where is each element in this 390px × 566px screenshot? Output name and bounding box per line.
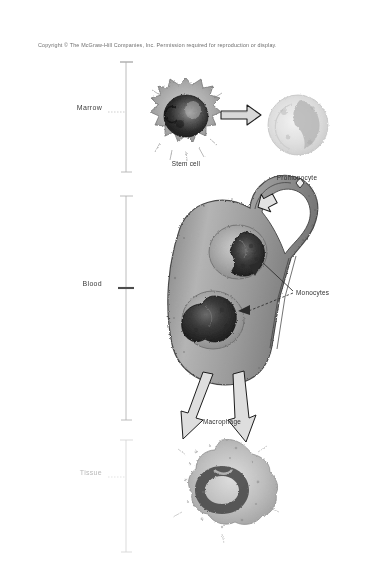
promonocyte-illustration [268,95,328,155]
zone-brackets [108,62,134,552]
arrow-stem-to-promonocyte [221,105,261,125]
stem-cell-illustration [150,78,222,161]
macrophage-granules [185,445,260,528]
blood-vessel-illustration [168,175,318,385]
vessel-wall-texture [173,185,316,381]
zone-label-blood: Blood [44,280,102,287]
arrow-monocyte-exit-left [181,372,213,439]
zone-bracket-tissue [108,440,133,552]
monocyte-upper [209,225,267,279]
leader-monocyte-upper [262,262,293,291]
arrow-monocyte-exit-right [228,371,256,442]
caption-promonocyte: Promonocyte [258,174,336,181]
arrow-promonocyte-into-vessel [253,189,279,216]
zone-bracket-blood [118,196,134,420]
monocyte-leader-lines [238,262,293,315]
macrophage-illustration [173,439,279,543]
zone-label-marrow: Marrow [44,104,102,111]
monocyte-lower [182,291,244,349]
leader-monocyte-lower [246,293,293,312]
caption-macrophage: Macrophage [182,418,262,425]
figure-canvas: Copyright © The McGraw-Hill Companies, I… [0,0,390,566]
zone-bracket-marrow [108,62,133,172]
caption-monocytes: Monocytes [296,289,366,296]
zone-label-tissue: Tissue [44,469,102,476]
caption-stem-cell: Stem cell [156,160,216,167]
copyright-notice: Copyright © The McGraw-Hill Companies, I… [38,42,368,49]
